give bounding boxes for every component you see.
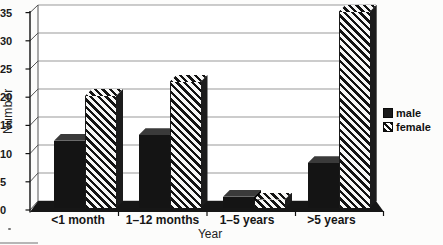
x-category-label: 1–5 years: [204, 213, 290, 227]
bar-face-front: [223, 197, 254, 208]
x-category-label: <1 month: [35, 213, 121, 227]
bar-chart: 05101520253035 <1 month1–12 months1–5 ye…: [0, 0, 443, 245]
bar-face-front: [54, 141, 85, 208]
female-swatch-icon: [383, 122, 393, 132]
bar-female-2: [170, 75, 208, 208]
bar-face-side: [201, 75, 208, 208]
bar-female-3: [254, 193, 292, 208]
legend-item-male: male: [383, 106, 441, 119]
legend-label: female: [396, 121, 431, 133]
bar-face-front: [85, 96, 116, 208]
x-category-label: >5 years: [289, 213, 375, 227]
bar-face-front: [139, 135, 170, 208]
bar-face-side: [116, 89, 123, 208]
legend-item-female: female: [383, 120, 441, 133]
bar-face-front: [339, 12, 370, 208]
legend: malefemale: [383, 106, 441, 134]
edge-smudge: [0, 242, 38, 244]
x-axis-title: Year: [185, 227, 235, 241]
bar-face-front: [308, 163, 339, 208]
legend-label: male: [396, 107, 421, 119]
bar-female-1: [85, 89, 123, 208]
stray-mark: [8, 228, 11, 230]
male-swatch-icon: [383, 108, 393, 118]
bar-female-4: [339, 5, 377, 208]
bar-face-side: [370, 5, 377, 208]
bar-face-front: [254, 200, 285, 208]
bar-face-front: [170, 82, 201, 208]
x-category-label: 1–12 months: [120, 213, 206, 227]
y-axis-title: Number: [1, 83, 15, 139]
bars-layer: [0, 0, 443, 245]
